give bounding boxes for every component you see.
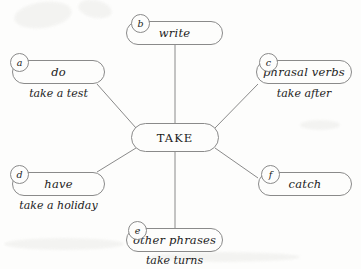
caption-c: take after — [256, 87, 352, 100]
node-center-take[interactable]: TAKE — [131, 123, 219, 152]
caption-d: take a holiday — [2, 199, 115, 212]
mindmap-canvas: TAKE do a take a test write b phrasal ve… — [0, 0, 361, 269]
badge-c[interactable]: c — [259, 53, 278, 72]
node-f-label: catch — [289, 177, 322, 191]
connector-c — [215, 84, 258, 128]
badge-a[interactable]: a — [10, 53, 29, 72]
node-d-label: have — [44, 177, 72, 191]
node-center-label: TAKE — [157, 131, 194, 145]
connector-d — [97, 148, 136, 172]
caption-a: take a test — [12, 87, 105, 100]
node-a-label: do — [51, 65, 66, 79]
node-b-label: write — [159, 26, 190, 40]
badge-b[interactable]: b — [131, 14, 150, 33]
caption-e: take turns — [126, 254, 223, 267]
badge-e[interactable]: e — [128, 221, 147, 240]
badge-f[interactable]: f — [261, 165, 280, 184]
badge-d[interactable]: d — [10, 165, 29, 184]
connector-f — [215, 148, 258, 178]
